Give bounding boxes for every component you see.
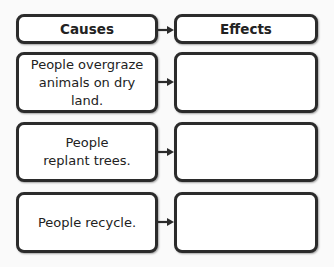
arrow-right-icon [158,218,174,226]
effect-box-1[interactable] [174,52,318,113]
cause-box-2: People replant trees. [16,122,158,182]
effects-header: Effects [174,14,318,44]
causes-header-label: Causes [60,20,114,38]
cause-text: People overgraze animals on dry land. [25,56,149,110]
effects-header-label: Effects [220,20,272,38]
cause-box-1: People overgraze animals on dry land. [16,52,158,113]
cause-box-3: People recycle. [16,192,158,253]
arrow-right-icon [158,148,174,156]
effect-box-3[interactable] [174,192,318,253]
causes-header: Causes [16,14,158,44]
arrow-right-icon [158,78,174,86]
arrow-right-icon [158,26,174,34]
effect-box-2[interactable] [174,122,318,182]
cause-text: People recycle. [38,214,136,232]
cause-text: People replant trees. [43,134,131,170]
